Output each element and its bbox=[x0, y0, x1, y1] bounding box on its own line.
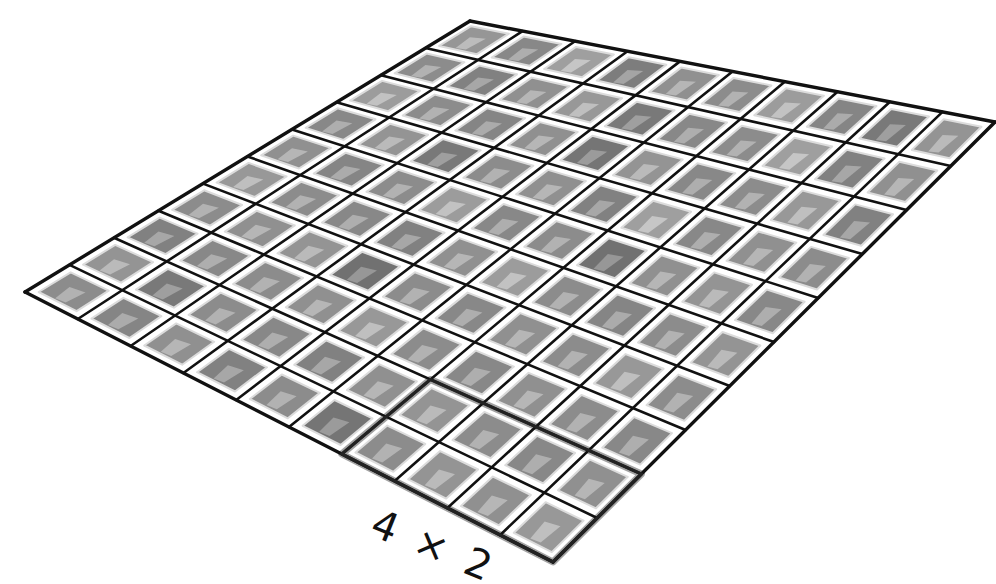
grid-tiles bbox=[39, 26, 982, 552]
